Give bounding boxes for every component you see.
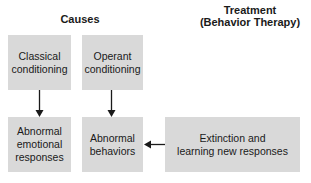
arrow-operant-to-behaviors [108, 90, 116, 117]
connector-arrows [0, 0, 311, 183]
arrow-extinction-to-behaviors [144, 141, 165, 149]
arrow-classical-to-emotional [36, 90, 44, 117]
